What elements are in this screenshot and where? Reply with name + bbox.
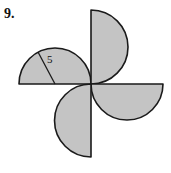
semicircle-right	[91, 84, 163, 120]
semicircle-left	[19, 48, 91, 84]
semicircle-bottom	[55, 84, 91, 157]
radius-label: 5	[47, 53, 53, 65]
semicircle-top	[91, 10, 128, 84]
pinwheel-figure: 5	[0, 0, 171, 173]
